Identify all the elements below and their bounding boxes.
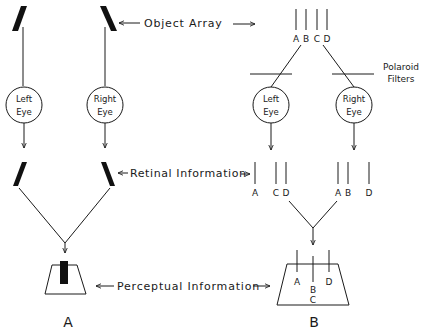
percept-label-a: A — [294, 277, 301, 287]
panel-a-label: A — [63, 314, 73, 330]
panel-b: A B C D Polaroid Filters Left Eye Right … — [250, 9, 419, 330]
right-eye-label: Right — [94, 94, 117, 104]
left-eye-a: Left Eye — [6, 87, 42, 123]
right-retinal-bar — [101, 162, 115, 186]
object-label-a: A — [293, 34, 300, 44]
panel-b-label: B — [309, 314, 319, 330]
center-labels: Object Array Retinal Information Percept… — [96, 17, 270, 293]
right-object-bar — [100, 6, 117, 31]
object-label-b: B — [303, 34, 309, 44]
left-eye-b: Left Eye — [253, 87, 289, 123]
left-retina-label: C — [273, 188, 279, 198]
filters-label: Filters — [388, 74, 415, 84]
left-eye-label: Left — [16, 94, 33, 104]
right-retina-label: D — [366, 188, 373, 198]
perceptual-information-label: Perceptual Information — [117, 280, 260, 293]
left-eye-label-2: Eye — [263, 107, 279, 117]
panel-a: Left Eye Right Eye A — [6, 6, 123, 330]
stereo-vision-diagram: Left Eye Right Eye A Object Array Retina… — [0, 0, 426, 335]
left-retinal-bar — [13, 162, 27, 186]
right-retina-label: B — [345, 188, 351, 198]
percept-label-b: B — [310, 285, 316, 295]
object-array-label: Object Array — [144, 17, 223, 30]
retinal-information-label: Retinal Information — [130, 167, 247, 180]
object-label-c: C — [314, 34, 320, 44]
left-retina-label: D — [283, 188, 290, 198]
left-object-bar — [12, 6, 27, 31]
left-eye-label: Left — [263, 94, 280, 104]
right-eye-label-2: Eye — [346, 107, 362, 117]
percept-bar-a — [60, 261, 68, 284]
right-eye-label-2: Eye — [97, 107, 113, 117]
right-eye-b: Right Eye — [336, 87, 372, 123]
percept-label-d: D — [326, 277, 333, 287]
percept-label-c: C — [310, 295, 316, 305]
right-retina-label: A — [335, 188, 342, 198]
right-eye-label: Right — [343, 94, 366, 104]
left-retina-label: A — [252, 188, 259, 198]
left-eye-label-2: Eye — [16, 107, 32, 117]
right-eye-a: Right Eye — [87, 87, 123, 123]
object-label-d: D — [324, 34, 331, 44]
polaroid-label: Polaroid — [383, 62, 419, 72]
